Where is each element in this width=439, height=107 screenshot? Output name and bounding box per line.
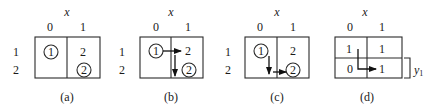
x-axis-label: x [273, 5, 280, 19]
row-label-2: 2 [225, 63, 231, 77]
cell-r2c1: 2 [81, 63, 87, 77]
col-label-0: 0 [47, 20, 53, 34]
row-label-1: 1 [225, 45, 231, 59]
col-label-0: 0 [257, 20, 263, 34]
cell-r1c1: 1 [379, 42, 385, 56]
cell-r1c0: 1 [48, 45, 54, 59]
col-label-1: 1 [80, 20, 86, 34]
cell-r1c1: 2 [80, 45, 86, 59]
col-label-1: 1 [185, 20, 191, 34]
panel-d: x 0 1 1 1 0 1 y1 (d) [335, 5, 423, 104]
row-label-1: 1 [119, 45, 125, 59]
panel-c: x 0 1 1 2 1 2 2 (c) [225, 5, 309, 104]
x-axis-label: x [361, 5, 368, 19]
col-label-0: 0 [153, 20, 159, 34]
cell-r2c0: 0 [347, 62, 353, 76]
state-diagram-figure: x 0 1 1 2 1 2 2 (a) x 0 1 1 2 1 2 2 (b) … [0, 0, 439, 107]
x-axis-label: x [167, 5, 174, 19]
panel-b: x 0 1 1 2 1 2 2 (b) [119, 5, 203, 104]
caption-a: (a) [60, 90, 73, 104]
cell-r2c1: 2 [186, 63, 192, 77]
caption-d: (d) [360, 90, 374, 104]
bracket-label: y1 [413, 63, 423, 78]
x-axis-label: x [63, 5, 70, 19]
col-label-1: 1 [379, 20, 385, 34]
panel-a: x 0 1 1 2 1 2 2 (a) [13, 5, 100, 104]
cell-r2c1: 2 [290, 63, 296, 77]
cell-r1c0: 1 [346, 42, 352, 56]
cell-r1c1: 2 [185, 44, 191, 58]
row-label-2: 2 [13, 63, 19, 77]
cell-r1c0: 1 [153, 44, 159, 58]
cell-r2c1: 1 [379, 62, 385, 76]
cell-r1c1: 2 [290, 44, 296, 58]
caption-b: (b) [164, 90, 178, 104]
cell-r1c0: 1 [258, 44, 264, 58]
row-label-2: 2 [119, 63, 125, 77]
bracket [404, 58, 410, 78]
caption-c: (c) [270, 90, 283, 104]
row-label-1: 1 [13, 45, 19, 59]
col-label-0: 0 [347, 20, 353, 34]
col-label-1: 1 [290, 20, 296, 34]
